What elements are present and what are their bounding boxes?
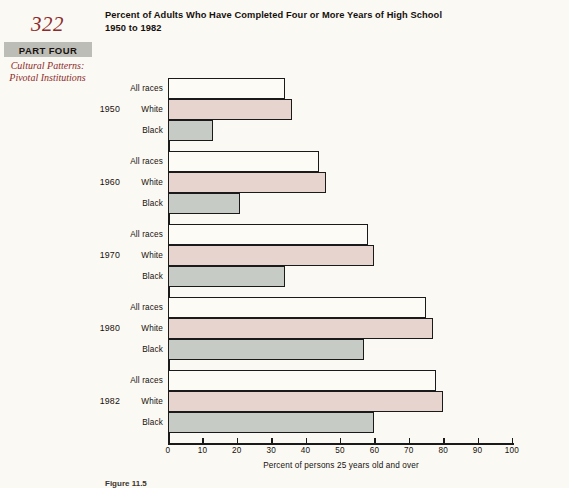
x-tick-label-50: 50 — [335, 446, 345, 455]
x-tick-label-100: 100 — [505, 446, 519, 455]
bar-label-white: White — [141, 172, 163, 193]
bar-label-white: White — [141, 391, 163, 412]
plot-area: 1950All racesWhiteBlack1960All racesWhit… — [168, 78, 513, 443]
bar-label-black: Black — [142, 339, 163, 360]
bar-label-all-races: All races — [130, 224, 163, 245]
bar-1960-white — [168, 172, 326, 193]
bar-1970-all-races — [168, 224, 368, 245]
bar-1982-black — [168, 412, 374, 433]
x-axis-title: Percent of persons 25 years old and over — [168, 461, 514, 470]
x-tick-label-80: 80 — [438, 446, 448, 455]
x-tick-60 — [374, 438, 375, 443]
bar-label-all-races: All races — [130, 151, 163, 172]
x-tick-40 — [306, 438, 307, 443]
part-label: PART FOUR — [4, 43, 92, 58]
x-tick-label-20: 20 — [232, 446, 242, 455]
bar-label-all-races: All races — [130, 78, 163, 99]
x-tick-label-10: 10 — [198, 446, 208, 455]
x-tick-label-0: 0 — [166, 446, 171, 455]
x-tick-30 — [271, 438, 272, 443]
x-axis-line — [168, 443, 514, 445]
x-tick-100 — [512, 438, 513, 443]
x-tick-10 — [202, 438, 203, 443]
x-tick-label-60: 60 — [370, 446, 380, 455]
bar-label-black: Black — [142, 266, 163, 287]
figure: Percent of Adults Who Have Completed Fou… — [95, 0, 569, 484]
x-tick-50 — [340, 438, 341, 443]
bar-1950-all-races — [168, 78, 285, 99]
bar-1960-all-races — [168, 151, 319, 172]
x-tick-label-90: 90 — [473, 446, 483, 455]
x-tick-label-30: 30 — [266, 446, 276, 455]
x-tick-70 — [409, 438, 410, 443]
x-tick-90 — [478, 438, 479, 443]
year-label-1960: 1960 — [100, 172, 120, 193]
bar-label-all-races: All races — [130, 297, 163, 318]
bar-1980-white — [168, 318, 433, 339]
bar-1950-white — [168, 99, 292, 120]
bar-1982-white — [168, 391, 443, 412]
year-label-1950: 1950 — [100, 99, 120, 120]
bar-1970-white — [168, 245, 374, 266]
year-label-1982: 1982 — [100, 391, 120, 412]
bar-label-black: Black — [142, 193, 163, 214]
margin-column: 322 PART FOUR Cultural Patterns: Pivotal… — [0, 0, 95, 484]
bar-label-white: White — [141, 318, 163, 339]
year-label-1980: 1980 — [100, 318, 120, 339]
year-label-1970: 1970 — [100, 245, 120, 266]
chart-title-line1: Percent of Adults Who Have Completed Fou… — [105, 10, 442, 20]
bar-label-white: White — [141, 245, 163, 266]
x-axis: 0102030405060708090100 Percent of person… — [168, 443, 514, 483]
bar-label-all-races: All races — [130, 370, 163, 391]
bar-1980-all-races — [168, 297, 426, 318]
bar-label-black: Black — [142, 412, 163, 433]
bar-1960-black — [168, 193, 240, 214]
x-tick-80 — [443, 438, 444, 443]
chart-title: Percent of Adults Who Have Completed Fou… — [105, 9, 565, 34]
x-tick-0 — [168, 438, 169, 443]
figure-caption: Figure 11.5 — [105, 479, 569, 488]
chart-title-line2: 1950 to 1982 — [105, 23, 162, 33]
bar-1970-black — [168, 266, 285, 287]
bar-label-white: White — [141, 99, 163, 120]
x-tick-label-40: 40 — [301, 446, 311, 455]
x-tick-20 — [237, 438, 238, 443]
bar-label-black: Black — [142, 120, 163, 141]
x-tick-label-70: 70 — [404, 446, 414, 455]
bar-1950-black — [168, 120, 213, 141]
page-number: 322 — [0, 12, 95, 37]
part-title: Cultural Patterns: Pivotal Institutions — [0, 60, 95, 83]
bar-1980-black — [168, 339, 364, 360]
bar-1982-all-races — [168, 370, 436, 391]
